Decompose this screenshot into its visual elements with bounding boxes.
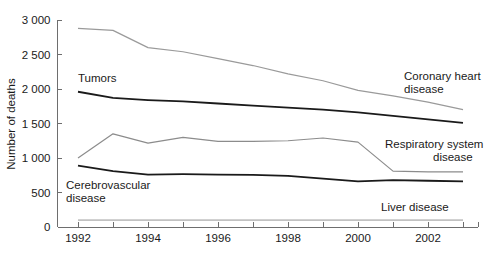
x-axis: 199219941996199820002002 bbox=[58, 222, 479, 244]
y-axis-title: Number of deaths bbox=[5, 78, 17, 170]
chart-canvas: 05001 0001 5002 0002 5003 000 1992199419… bbox=[0, 0, 493, 254]
tumors-annotation: Tumors bbox=[78, 72, 117, 84]
y-tick-label: 1 500 bbox=[22, 118, 51, 130]
series-line-coronary-heart-disease bbox=[78, 28, 463, 109]
cerebrovascular-disease-annotation: Cerebrovascular bbox=[66, 179, 151, 191]
coronary-heart-disease-annotation: Coronary heart bbox=[404, 70, 482, 82]
x-tick-label: 1998 bbox=[275, 232, 301, 244]
x-tick-label: 1992 bbox=[65, 232, 91, 244]
y-tick-label: 2 500 bbox=[22, 49, 51, 61]
series-line-tumors bbox=[78, 92, 463, 123]
y-tick-label: 0 bbox=[44, 221, 50, 233]
y-tick-label: 1 000 bbox=[22, 152, 51, 164]
x-tick-label: 2000 bbox=[345, 232, 371, 244]
y-tick-label: 500 bbox=[31, 187, 50, 199]
line-chart: 05001 0001 5002 0002 5003 000 1992199419… bbox=[0, 0, 493, 254]
y-axis: 05001 0001 5002 0002 5003 000 bbox=[22, 14, 62, 233]
liver-disease-annotation: Liver disease bbox=[381, 201, 449, 213]
cerebrovascular-disease-annotation-line2: disease bbox=[66, 192, 106, 204]
respiratory-system-disease-annotation-line2: disease bbox=[433, 151, 473, 163]
y-tick-label: 2 000 bbox=[22, 83, 51, 95]
coronary-heart-disease-annotation-line2: disease bbox=[404, 83, 444, 95]
x-tick-label: 1996 bbox=[205, 232, 231, 244]
x-tick-label: 1994 bbox=[135, 232, 161, 244]
y-tick-label: 3 000 bbox=[22, 14, 51, 26]
respiratory-system-disease-annotation: Respiratory system bbox=[385, 138, 483, 150]
series-layer bbox=[78, 28, 463, 220]
x-tick-label: 2002 bbox=[415, 232, 441, 244]
